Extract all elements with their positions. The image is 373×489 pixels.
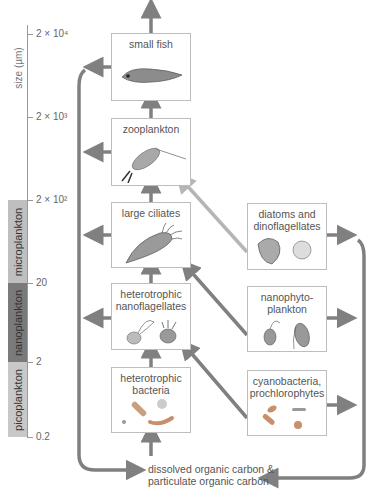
box-het-nanoflagellates: heterotrophic nanoflagellates xyxy=(111,283,191,350)
box-large-ciliates: large ciliates xyxy=(111,202,191,268)
nanophytoplankton-icon xyxy=(256,315,320,351)
box-cyanobacteria: cyanobacteria, prochlorophytes xyxy=(247,370,327,436)
box-diatoms-dinoflagellates: diatoms and dinoflagellates xyxy=(247,203,327,270)
cyanobacteria-icon xyxy=(256,403,320,433)
fish-icon xyxy=(120,64,184,86)
bacteria-icon xyxy=(120,398,184,430)
nanoflagellate-icon xyxy=(118,314,186,348)
copepod-icon xyxy=(116,137,188,183)
box-zooplankton: zooplankton xyxy=(111,118,191,186)
ciliate-icon xyxy=(122,223,184,267)
carbon-pool-label: dissolved organic carbon & particulate o… xyxy=(148,463,274,487)
diatom-icon xyxy=(254,234,322,268)
box-nanophytoplankton: nanophyto- plankton xyxy=(247,286,327,352)
box-het-bacteria: heterotrophic bacteria xyxy=(111,367,191,433)
box-small-fish: small fish xyxy=(111,33,191,101)
